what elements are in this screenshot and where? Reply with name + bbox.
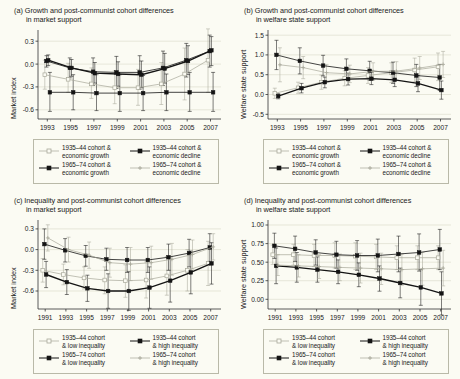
legend-item[interactable]: 1935–44 cohort &economic growth <box>38 144 125 159</box>
marker-open-square-icon <box>395 256 399 260</box>
marker-filled-square-icon <box>127 289 131 293</box>
panel-a-plot: 0.30.0-0.3-0.619931995199719992001200320… <box>0 24 230 137</box>
marker-filled-square-icon <box>415 74 419 78</box>
marker-plus-icon <box>149 261 153 265</box>
panel-b: (b) Growth and post-communist cohort dif… <box>230 0 460 190</box>
legend-item[interactable]: 1965–74 cohort& high inequality <box>129 351 216 366</box>
legend-item[interactable]: 1935–44 cohort& high inequality <box>359 334 446 349</box>
marker-filled-square-icon <box>298 59 302 63</box>
marker-open-square-icon <box>183 72 187 76</box>
panel-d-legend: 1935–44 cohort& low inequality1935–44 co… <box>263 329 449 374</box>
panel-a-label: (a) <box>14 6 23 15</box>
panel-d-label: (d) <box>244 196 253 205</box>
legend-marker-icon <box>129 352 151 364</box>
y-tick-label: 0.0 <box>25 246 34 253</box>
marker-open-square-icon <box>416 256 420 260</box>
marker-filled-square-icon <box>314 251 318 255</box>
y-tick-label: 0.0 <box>25 61 34 68</box>
x-tick-label: 1991 <box>268 314 283 321</box>
marker-open-square-icon <box>436 256 440 260</box>
x-tick-label: 1995 <box>309 314 324 321</box>
legend-item[interactable]: 1965–74 cohort& low inequality <box>268 351 355 366</box>
marker-filled-square-icon <box>93 71 97 75</box>
y-tick-label: 0.50 <box>251 259 264 266</box>
legend-marker-icon <box>268 162 290 174</box>
legend-label: 1935–44 cohort& high inequality <box>153 334 198 349</box>
legend-marker-icon <box>268 145 290 157</box>
y-tick-label: -0.3 <box>23 267 35 274</box>
legend-item[interactable]: 1965–74 cohort &economic decline <box>129 161 216 176</box>
y-tick-label: 1.0 <box>255 51 264 58</box>
marker-open-square-icon <box>366 74 370 78</box>
marker-plus-icon <box>421 267 425 271</box>
legend-label: 1935–44 cohort &economic growth <box>62 144 111 159</box>
legend-marker-icon <box>38 335 60 347</box>
legend-item[interactable]: 1965–74 cohort &economic decline <box>359 161 446 176</box>
marker-plus-icon <box>129 262 133 266</box>
marker-filled-square-icon <box>63 249 67 253</box>
x-tick-label: 2001 <box>133 124 148 131</box>
marker-plus-icon <box>338 266 342 270</box>
marker-open-square-icon <box>124 279 128 283</box>
y-tick-label: -0.5 <box>253 111 265 118</box>
marker-filled-square-icon <box>440 88 444 92</box>
legend-item[interactable]: 1935–44 cohort &economic growth <box>268 144 355 159</box>
marker-filled-square-icon <box>323 80 327 84</box>
marker-filled-square-icon <box>321 64 325 68</box>
panel-c-title: (c) Inequality and post-communist cohort… <box>14 196 226 215</box>
marker-plus-icon <box>325 71 329 75</box>
marker-filled-square-icon <box>378 277 382 281</box>
legend-item[interactable]: 1965–74 cohort &economic growth <box>268 161 355 176</box>
marker-filled-square-icon <box>141 91 145 95</box>
marker-filled-square-icon <box>86 287 90 291</box>
panel-b-title-line1: Growth and post-communist cohort differe… <box>255 6 404 15</box>
legend-item[interactable]: 1935–44 cohort& low inequality <box>38 334 125 349</box>
marker-filled-square-icon <box>105 258 109 262</box>
marker-filled-square-icon <box>44 273 48 277</box>
figure-grid: (a) Growth and post-communist cohort dif… <box>0 0 460 379</box>
marker-filled-square-icon <box>186 59 190 63</box>
marker-open-square-icon <box>136 86 140 90</box>
panel-a: (a) Growth and post-communist cohort dif… <box>0 0 230 190</box>
marker-filled-square-icon <box>165 91 169 95</box>
legend-item[interactable]: 1935–44 cohort& high inequality <box>129 334 216 349</box>
x-tick-label: 2001 <box>363 124 378 131</box>
y-tick-label: 0.25 <box>251 277 264 284</box>
legend-label: 1965–74 cohort &economic growth <box>62 161 111 176</box>
marker-plus-icon <box>441 266 445 270</box>
y-tick-label: -0.6 <box>23 287 35 294</box>
panel-d: (d) Inequality and post-communist cohort… <box>230 190 460 379</box>
marker-filled-square-icon <box>48 91 52 95</box>
x-tick-label: 2003 <box>162 314 177 321</box>
marker-filled-square-icon <box>336 270 340 274</box>
marker-open-square-icon <box>90 82 94 86</box>
marker-filled-square-icon <box>438 76 442 80</box>
legend-item[interactable]: 1935–44 cohort &economic decline <box>359 144 446 159</box>
legend-item[interactable]: 1935–44 cohort &economic decline <box>129 144 216 159</box>
marker-filled-square-icon <box>345 67 349 71</box>
panel-d-title: (d) Inequality and post-communist cohort… <box>244 196 456 215</box>
marker-filled-square-icon <box>148 286 152 290</box>
legend-item[interactable]: 1965–74 cohort &economic growth <box>38 161 125 176</box>
legend-label: 1965–74 cohort &economic decline <box>153 161 202 176</box>
y-axis-label: Welfare state support <box>239 50 248 119</box>
x-tick-label: 2005 <box>183 314 198 321</box>
marker-filled-square-icon <box>140 73 144 77</box>
legend-item[interactable]: 1965–74 cohort& low inequality <box>38 351 125 366</box>
marker-filled-square-icon <box>274 264 278 268</box>
marker-filled-square-icon <box>210 262 214 266</box>
marker-filled-square-icon <box>163 67 167 71</box>
legend-item[interactable]: 1935–44 cohort& low inequality <box>268 334 355 349</box>
legend-marker-icon <box>38 162 60 174</box>
marker-filled-square-icon <box>397 252 401 256</box>
x-tick-label: 1995 <box>79 314 94 321</box>
legend-label: 1935–44 cohort &economic decline <box>383 144 432 159</box>
marker-filled-square-icon <box>125 258 129 262</box>
x-tick-label: 2001 <box>141 314 156 321</box>
legend-item[interactable]: 1965–74 cohort& high inequality <box>359 351 446 366</box>
marker-plus-icon <box>441 63 445 67</box>
panel-a-title: (a) Growth and post-communist cohort dif… <box>14 6 226 25</box>
y-axis-label: Market index <box>9 267 18 309</box>
marker-filled-square-icon <box>118 91 122 95</box>
marker-plus-icon <box>371 70 375 74</box>
